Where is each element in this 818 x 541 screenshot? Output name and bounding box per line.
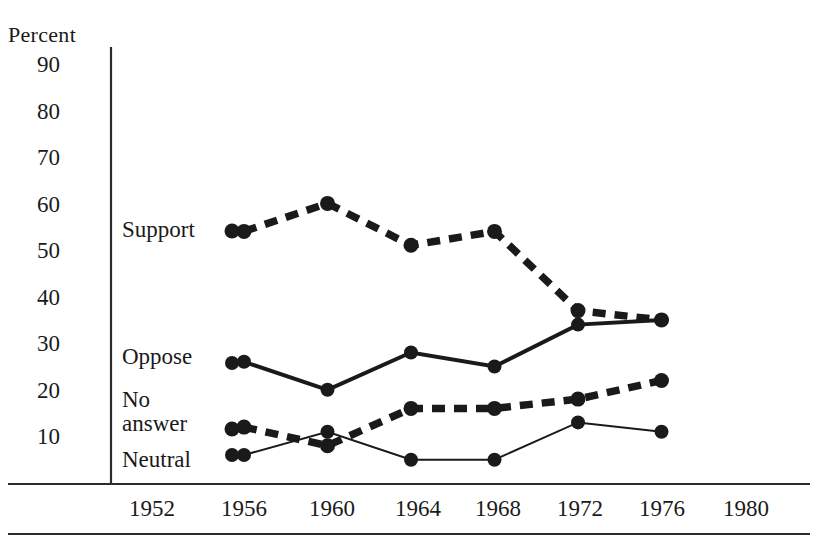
x-axis-tick-1952: 1952 (112, 497, 192, 520)
data-point-marker (571, 303, 586, 318)
plot-area (0, 0, 818, 541)
x-axis-top-rule (8, 483, 810, 485)
x-axis-tick-1968: 1968 (458, 497, 538, 520)
data-point-marker (571, 392, 586, 407)
chart-container: Percent 90 80 70 60 50 40 30 20 10 Suppo… (0, 0, 818, 541)
data-point-marker (571, 415, 585, 429)
data-point-marker (320, 196, 335, 211)
data-point-marker (321, 425, 335, 439)
series-line (244, 203, 662, 320)
data-point-marker (320, 438, 335, 453)
data-point-marker (487, 401, 502, 416)
data-point-marker (488, 453, 502, 467)
data-point-marker (655, 425, 669, 439)
data-point-marker (655, 313, 669, 327)
series-neutral (237, 415, 669, 466)
series-line (244, 422, 662, 459)
series-label-marker-no-answer (225, 422, 240, 437)
series-no-answer (237, 373, 670, 453)
data-point-marker (404, 346, 418, 360)
series-line (244, 320, 662, 390)
x-axis-bottom-rule (8, 533, 810, 535)
x-axis-tick-1976: 1976 (622, 497, 702, 520)
data-point-marker (404, 238, 419, 253)
data-point-marker (654, 373, 669, 388)
data-point-marker (237, 448, 251, 462)
data-point-marker (237, 355, 251, 369)
data-point-marker (404, 401, 419, 416)
x-axis-tick-1980: 1980 (706, 497, 786, 520)
data-point-marker (404, 453, 418, 467)
series-label-marker-oppose (225, 356, 239, 370)
data-point-marker (321, 383, 335, 397)
data-point-marker (488, 360, 502, 374)
series-label-marker-support (225, 224, 240, 239)
series-label-marker-neutral (225, 448, 239, 462)
x-axis-tick-1964: 1964 (378, 497, 458, 520)
series-line (244, 381, 662, 446)
x-axis-tick-1956: 1956 (204, 497, 284, 520)
series-oppose (237, 313, 669, 397)
series-support (237, 196, 670, 328)
x-axis-tick-1972: 1972 (540, 497, 620, 520)
data-point-marker (571, 318, 585, 332)
data-point-marker (487, 224, 502, 239)
x-axis-tick-1960: 1960 (292, 497, 372, 520)
series-layer (225, 196, 670, 467)
